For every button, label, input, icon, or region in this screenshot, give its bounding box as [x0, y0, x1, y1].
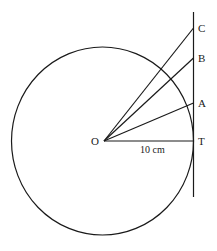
label-O: O — [91, 135, 99, 147]
radius-length-label: 10 cm — [140, 144, 165, 155]
label-T: T — [198, 135, 205, 147]
label-A: A — [198, 97, 206, 109]
segment-OB — [104, 58, 194, 141]
circle-tangent-diagram: O C B A T 10 cm — [0, 0, 217, 251]
segment-OA — [104, 103, 194, 141]
label-B: B — [198, 52, 205, 64]
segment-OC — [104, 28, 194, 141]
label-C: C — [198, 22, 205, 34]
